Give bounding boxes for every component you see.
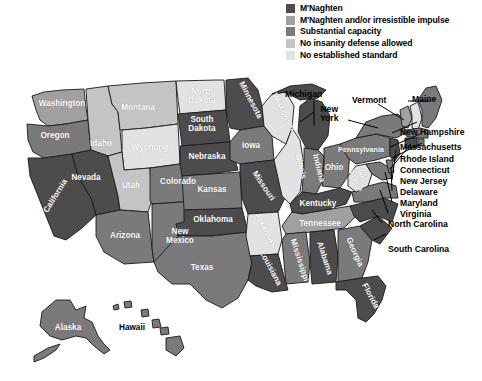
state-north-dakota[interactable] [176,80,226,114]
state-hawaii-island-1[interactable] [113,304,119,310]
state-new-york[interactable] [356,114,406,138]
callout-label-new-jersey: New Jersey [400,177,447,186]
state-alaska-aleutians[interactable] [34,344,60,362]
state-south-dakota[interactable] [178,110,230,146]
state-maine[interactable] [418,86,442,128]
callout-label-new-york: New York [320,105,338,124]
state-hawaii-island-2[interactable] [124,301,132,308]
state-hawaii-island-3[interactable] [141,309,149,317]
state-nebraska[interactable] [180,142,238,176]
callout-label-michigan: Michigan [285,90,322,99]
state-minnesota[interactable] [226,78,264,130]
insanity-defense-map-infographic: M'Naghten M'Naghten and/or irresistible … [0,0,482,381]
state-washington[interactable] [32,89,88,126]
state-iowa[interactable] [230,126,274,164]
callout-label-connecticut: Connecticut [400,166,450,175]
state-arizona[interactable] [96,210,154,264]
state-alabama[interactable] [310,230,338,284]
state-hawaii-island-4[interactable] [152,319,161,328]
callout-label-maine: Maine [412,95,436,104]
callout-label-new-hampshire: New Hampshire [400,128,464,137]
state-indiana[interactable] [302,148,324,194]
callout-label-delaware: Delaware [400,188,438,197]
callout-label-maryland: Maryland [400,199,438,208]
state-hawaii-island-6[interactable] [166,336,184,356]
map-canvas: Washington Oregon California Idaho Nevad… [0,0,482,381]
callout-label-north-carolina: North Carolina [388,220,448,229]
callout-label-vermont: Vermont [352,96,386,105]
state-louisiana[interactable] [248,254,288,292]
callout-label-virginia: Virginia [400,210,431,219]
callout-label-south-carolina: South Carolina [388,245,449,254]
state-mississippi[interactable] [282,232,310,284]
state-hawaii-island-5[interactable] [160,327,169,335]
state-florida[interactable] [336,276,386,322]
callout-label-rhode-island: Rhode Island [400,155,454,164]
state-oklahoma[interactable] [176,208,248,236]
state-alaska[interactable] [40,300,110,354]
state-arkansas[interactable] [246,212,282,256]
state-wyoming[interactable] [122,124,180,170]
callout-label-massachusetts: Massachusetts [400,143,462,152]
state-kansas[interactable] [182,172,242,210]
